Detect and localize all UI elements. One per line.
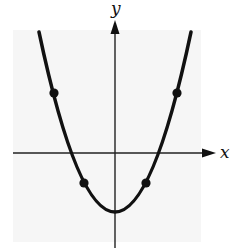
data-point xyxy=(79,178,88,187)
data-point xyxy=(141,178,150,187)
parabola-graph: y x xyxy=(0,0,231,250)
data-point xyxy=(49,88,58,97)
x-axis-arrow-icon xyxy=(202,149,216,158)
data-point xyxy=(172,88,181,97)
x-axis-label: x xyxy=(220,142,230,162)
y-axis-label: y xyxy=(110,0,121,18)
y-axis-arrow-icon xyxy=(111,20,120,34)
